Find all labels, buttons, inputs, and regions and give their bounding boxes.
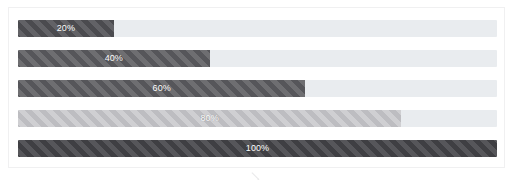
- progress-fill-60[interactable]: 60%: [18, 80, 305, 97]
- progress-track-80[interactable]: 80%: [18, 110, 497, 127]
- progress-label-20: 20%: [57, 24, 75, 33]
- progress-label-80: 80%: [200, 114, 218, 123]
- progress-fill-20[interactable]: 20%: [18, 20, 114, 37]
- page-corner-artifact: [249, 172, 260, 180]
- progress-row-40: 40%: [18, 50, 497, 67]
- progress-row-60: 60%: [18, 80, 497, 97]
- progress-fill-100[interactable]: 100%: [18, 140, 497, 157]
- progress-track-20[interactable]: 20%: [18, 20, 497, 37]
- progress-bar-list: 20% 40% 60% 80%: [18, 20, 497, 157]
- progress-label-40: 40%: [105, 54, 123, 63]
- progress-label-60: 60%: [153, 84, 171, 93]
- progress-track-40[interactable]: 40%: [18, 50, 497, 67]
- progress-track-100[interactable]: 100%: [18, 140, 497, 157]
- progress-row-100: 100%: [18, 140, 497, 157]
- progress-fill-80[interactable]: 80%: [18, 110, 401, 127]
- progress-label-100: 100%: [246, 144, 269, 153]
- progress-track-60[interactable]: 60%: [18, 80, 497, 97]
- progress-fill-40[interactable]: 40%: [18, 50, 210, 67]
- progress-row-80: 80%: [18, 110, 497, 127]
- progress-row-20: 20%: [18, 20, 497, 37]
- progress-bar-demo-panel: 20% 40% 60% 80%: [8, 7, 505, 168]
